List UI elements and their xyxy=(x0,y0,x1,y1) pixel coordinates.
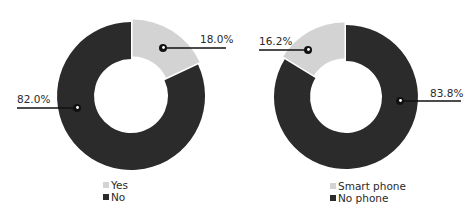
legend-swatch-smart-phone xyxy=(330,183,336,189)
left-legend: Yes No xyxy=(103,179,128,203)
label-smart-phone-value: 16.2% xyxy=(259,35,292,47)
legend-swatch-no xyxy=(103,194,109,200)
left-donut-chart: 18.0% 82.0% Yes No xyxy=(17,19,233,203)
legend-label-yes: Yes xyxy=(110,179,128,191)
charts-canvas: 18.0% 82.0% Yes No 16.2% 83.8% Smart pho… xyxy=(0,0,476,218)
legend-swatch-no-phone xyxy=(330,195,336,201)
legend-label-no-phone: No phone xyxy=(338,192,388,204)
label-yes-value: 18.0% xyxy=(200,33,233,45)
right-legend: Smart phone No phone xyxy=(330,180,406,204)
legend-label-smart-phone: Smart phone xyxy=(338,180,406,192)
label-no-value: 82.0% xyxy=(17,93,50,105)
label-no-phone-value: 83.8% xyxy=(430,87,463,99)
right-donut-chart: 16.2% 83.8% Smart phone No phone xyxy=(259,22,463,204)
legend-swatch-yes xyxy=(103,182,109,188)
legend-label-no: No xyxy=(111,191,125,203)
